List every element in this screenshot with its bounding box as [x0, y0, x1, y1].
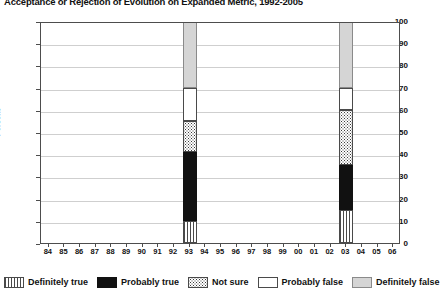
legend-swatch-probably-true — [97, 277, 117, 288]
legend-label: Probably true — [121, 277, 179, 287]
bar-segment-not-sure — [339, 110, 353, 166]
x-axis-tick-mark — [126, 244, 127, 247]
bar-segment-definitely-true — [339, 210, 353, 243]
x-axis-tick-mark — [298, 244, 299, 247]
x-axis-tick-mark — [189, 244, 190, 247]
x-axis-tick-mark — [157, 244, 158, 247]
legend-label: Definitely false — [376, 277, 440, 287]
legend-swatch-definitely-false — [352, 277, 372, 288]
bar-segment-definitely-false — [183, 22, 197, 88]
legend-item: Definitely false — [352, 277, 440, 288]
x-axis-tick-mark — [392, 244, 393, 247]
legend-swatch-probably-false — [258, 277, 278, 288]
legend-item: Definitely true — [4, 277, 88, 288]
stacked-bar — [339, 22, 353, 243]
legend-item: Probably false — [258, 277, 344, 288]
legend-item: Not sure — [188, 277, 249, 288]
x-axis-tick-mark — [345, 244, 346, 247]
bar-segment-definitely-true — [183, 221, 197, 243]
y-axis-tick-mark — [36, 244, 40, 245]
x-axis-tick-mark — [330, 244, 331, 247]
plot-area — [40, 22, 400, 244]
chart-title: Acceptance or Rejection of Evolution on … — [4, 0, 404, 7]
stacked-bar — [183, 22, 197, 243]
legend-swatch-definitely-true — [4, 277, 24, 288]
legend-item: Probably true — [97, 277, 179, 288]
y-axis-label: Percent — [0, 109, 2, 137]
legend-label: Probably false — [282, 277, 344, 287]
x-axis-tick-mark — [361, 244, 362, 247]
bar-segment-probably-true — [183, 152, 197, 221]
x-axis-tick-mark — [79, 244, 80, 247]
x-axis-tick-mark — [267, 244, 268, 247]
x-axis-tick-mark — [283, 244, 284, 247]
x-axis-tick-mark — [142, 244, 143, 247]
x-axis-tick-label: 06 — [382, 247, 402, 256]
legend-swatch-not-sure — [188, 277, 208, 288]
x-axis-tick-mark — [251, 244, 252, 247]
bar-segment-definitely-false — [339, 22, 353, 88]
bar-segment-probably-false — [339, 88, 353, 110]
x-axis-tick-mark — [110, 244, 111, 247]
bar-segment-not-sure — [183, 121, 197, 152]
bar-segment-probably-true — [339, 165, 353, 209]
x-axis-tick-mark — [48, 244, 49, 247]
legend-label: Definitely true — [28, 277, 88, 287]
chart-legend: Definitely trueProbably trueNot sureProb… — [4, 271, 408, 293]
x-axis-tick-mark — [173, 244, 174, 247]
x-axis-tick-mark — [63, 244, 64, 247]
x-axis-tick-mark — [95, 244, 96, 247]
x-axis-tick-mark — [236, 244, 237, 247]
bar-segment-probably-false — [183, 88, 197, 121]
x-axis-tick-mark — [204, 244, 205, 247]
x-axis-tick-mark — [377, 244, 378, 247]
legend-label: Not sure — [212, 277, 249, 287]
x-axis-tick-mark — [220, 244, 221, 247]
x-axis-tick-mark — [314, 244, 315, 247]
